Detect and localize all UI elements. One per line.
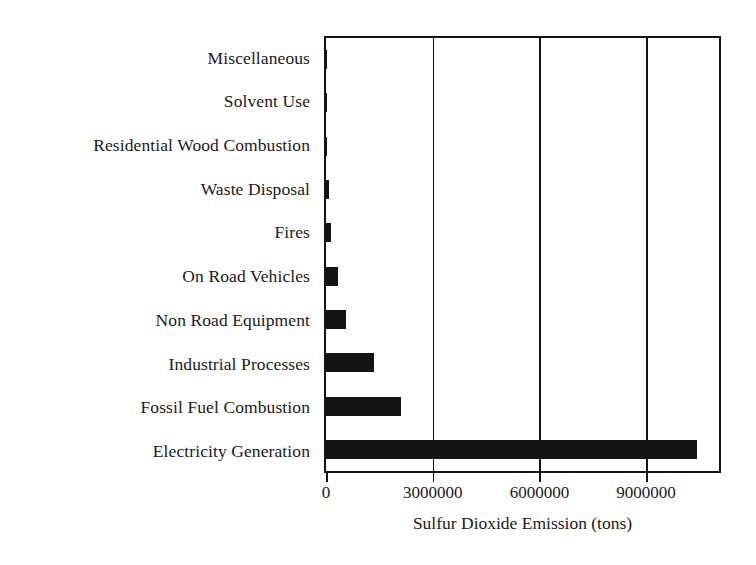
y-axis-category-labels: Miscellaneous Solvent Use Residential Wo… — [0, 36, 318, 473]
y-axis-tick: Solvent Use — [0, 80, 318, 124]
bar-row — [326, 211, 719, 254]
plot-area — [324, 36, 721, 473]
y-axis-tick: Miscellaneous — [0, 36, 318, 80]
y-axis-tick-label: Residential Wood Combustion — [93, 136, 310, 154]
x-axis-tick-label: 0 — [322, 483, 331, 503]
bar — [326, 353, 374, 372]
bar-chart: Miscellaneous Solvent Use Residential Wo… — [0, 0, 756, 565]
x-axis-tick-label: 9000000 — [616, 483, 676, 503]
y-axis-tick-label: On Road Vehicles — [182, 267, 310, 285]
bar-row — [326, 298, 719, 341]
y-axis-tick: On Road Vehicles — [0, 255, 318, 299]
bars-layer — [326, 38, 719, 471]
bar — [326, 440, 697, 459]
y-axis-tick: Non Road Equipment — [0, 298, 318, 342]
bar-row — [326, 428, 719, 471]
bar — [326, 267, 338, 286]
x-axis-tickmark — [539, 473, 541, 482]
y-axis-tick: Fires — [0, 211, 318, 255]
x-axis-tick-labels: 0300000060000009000000 — [324, 483, 721, 509]
y-axis-tick-label: Non Road Equipment — [156, 311, 310, 329]
x-axis-title: Sulfur Dioxide Emission (tons) — [324, 513, 721, 534]
bar-row — [326, 81, 719, 124]
bar-row — [326, 341, 719, 384]
y-axis-tick: Fossil Fuel Combustion — [0, 386, 318, 430]
y-axis-tick-label: Miscellaneous — [208, 49, 310, 67]
y-axis-tick-label: Electricity Generation — [153, 442, 310, 460]
x-axis-tickmark — [646, 473, 648, 482]
x-axis-tickmark — [433, 473, 435, 482]
bar — [326, 180, 329, 199]
bar — [326, 223, 331, 242]
x-axis-tick-label: 3000000 — [403, 483, 463, 503]
x-axis-tickmark — [326, 473, 328, 482]
y-axis-tick-label: Solvent Use — [224, 92, 310, 110]
bar — [326, 137, 327, 156]
bar-row — [326, 254, 719, 297]
bar-row — [326, 125, 719, 168]
y-axis-tick-label: Waste Disposal — [201, 180, 310, 198]
y-axis-tick: Residential Wood Combustion — [0, 123, 318, 167]
y-axis-tick-label: Industrial Processes — [169, 355, 311, 373]
bar-row — [326, 168, 719, 211]
x-axis-tickmarks — [324, 473, 721, 482]
bar-row — [326, 38, 719, 81]
y-axis-tick: Waste Disposal — [0, 167, 318, 211]
bar — [326, 397, 401, 416]
bar-row — [326, 384, 719, 427]
y-axis-tick-label: Fossil Fuel Combustion — [141, 398, 310, 416]
y-axis-tick: Electricity Generation — [0, 429, 318, 473]
y-axis-tick-label: Fires — [275, 223, 311, 241]
y-axis-tick: Industrial Processes — [0, 342, 318, 386]
bar — [326, 310, 346, 329]
x-axis-tick-label: 6000000 — [510, 483, 570, 503]
